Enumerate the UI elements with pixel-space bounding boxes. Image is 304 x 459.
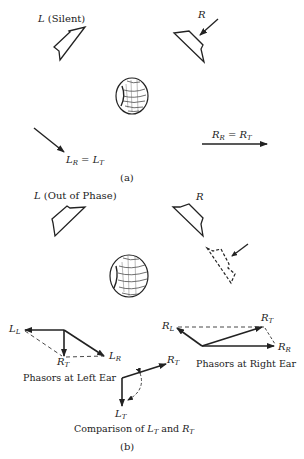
label-eq: = bbox=[225, 129, 240, 140]
label-L: L bbox=[34, 190, 41, 201]
label-RL: RL bbox=[162, 320, 174, 333]
label-RT-left: RT bbox=[57, 356, 69, 369]
right-ear-title: Phasors at Right Ear bbox=[196, 358, 296, 369]
label-RR: RR bbox=[278, 341, 291, 354]
label-sub: L bbox=[16, 328, 21, 336]
label-sub2: T bbox=[189, 428, 194, 436]
left-phasor-label: LR = LT bbox=[66, 154, 104, 167]
title-and: and bbox=[158, 423, 182, 434]
label-main: R bbox=[57, 356, 65, 367]
left-phasor-arrow bbox=[34, 128, 64, 152]
label-L: L bbox=[38, 13, 45, 24]
right-ear-phasor-diagram bbox=[177, 327, 275, 346]
label-sub: T bbox=[65, 361, 70, 369]
label-sub: T bbox=[175, 359, 180, 367]
caption-b: (b) bbox=[120, 441, 134, 452]
comparison-phasor-diagram bbox=[122, 364, 166, 406]
right-phasor-label: RR = RT bbox=[212, 129, 252, 142]
head-icon bbox=[116, 78, 148, 114]
label-LR: LR bbox=[109, 350, 121, 363]
left-ear-phasor-diagram bbox=[25, 330, 104, 357]
label-sub2: T bbox=[247, 134, 252, 142]
label-main: L bbox=[109, 350, 116, 361]
label-RT-comparison: RT bbox=[167, 354, 179, 367]
label-sub: R bbox=[286, 346, 291, 354]
left-speaker-label: L (Silent) bbox=[38, 13, 85, 24]
label-main: R bbox=[278, 341, 286, 352]
right-speaker-label-b: R bbox=[196, 191, 204, 202]
right-speaker-icon bbox=[174, 19, 218, 62]
label-main: R bbox=[212, 129, 220, 140]
label-main: L bbox=[9, 323, 16, 334]
label-main: R bbox=[167, 354, 175, 365]
head-icon-b bbox=[110, 255, 148, 297]
label-RT-right: RT bbox=[261, 312, 273, 325]
label-sub: T bbox=[269, 317, 274, 325]
comparison-title: Comparison of LT and RT bbox=[74, 423, 194, 436]
label-main: L bbox=[115, 408, 122, 419]
right-speaker-icon-b bbox=[173, 204, 203, 236]
label-LT-comparison: LT bbox=[115, 408, 126, 421]
label-out-of-phase: (Out of Phase) bbox=[44, 190, 117, 201]
label-main: R bbox=[261, 312, 269, 323]
left-ear-title: Phasors at Left Ear bbox=[23, 372, 116, 383]
label-sub: R bbox=[116, 355, 121, 363]
diagram-canvas bbox=[0, 0, 304, 459]
left-speaker-label-b: L (Out of Phase) bbox=[34, 190, 117, 201]
label-silent: (Silent) bbox=[48, 13, 85, 24]
caption-a: (a) bbox=[120, 172, 134, 183]
title-prefix: Comparison of bbox=[74, 423, 147, 434]
label-main: R bbox=[162, 320, 170, 331]
virtual-speaker-dashed-icon bbox=[207, 244, 248, 283]
label-sub: T bbox=[122, 413, 127, 421]
label-eq: = bbox=[78, 154, 93, 165]
left-speaker-out-of-phase-icon bbox=[52, 206, 85, 236]
right-speaker-label: R bbox=[198, 9, 206, 20]
label-main2: R bbox=[240, 129, 248, 140]
label-sub2: T bbox=[99, 159, 104, 167]
label-LL: LL bbox=[9, 323, 20, 336]
left-speaker-icon bbox=[54, 27, 85, 60]
label-sub: L bbox=[170, 325, 175, 333]
label-main: L bbox=[66, 154, 73, 165]
